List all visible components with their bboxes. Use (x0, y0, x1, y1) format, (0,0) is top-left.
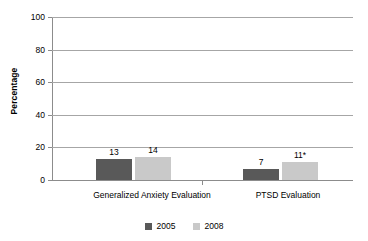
y-tick-mark-80 (48, 50, 52, 51)
gridline-40 (52, 115, 353, 116)
y-tick-mark-0 (48, 180, 52, 181)
plot-area: 100 80 60 40 20 0 13 (52, 17, 353, 180)
bar-2005-generalized-anxiety[interactable]: 13 (96, 159, 132, 180)
gridline-80 (52, 50, 353, 51)
legend-label-2008: 2008 (205, 221, 224, 231)
gridline-60 (52, 82, 353, 83)
legend-item-2005[interactable]: 2005 (145, 221, 176, 231)
y-tick-label-80: 80 (36, 45, 45, 55)
y-tick-label-0: 0 (40, 175, 45, 185)
legend-swatch-icon (193, 223, 200, 230)
bar-2005-ptsd[interactable]: 7 (243, 169, 279, 180)
legend-swatch-icon (145, 223, 152, 230)
category-label-ptsd: PTSD Evaluation (208, 190, 368, 200)
y-tick-mark-100 (48, 17, 52, 18)
y-tick-mark-60 (48, 82, 52, 83)
category-separator-tick (202, 180, 203, 185)
bar-2008-generalized-anxiety[interactable]: 14 (135, 157, 171, 180)
bar-2008-ptsd[interactable]: 11* (282, 162, 318, 180)
y-tick-label-100: 100 (31, 12, 45, 22)
y-tick-label-20: 20 (36, 142, 45, 152)
bar-chart: Percentage 100 80 60 40 20 (0, 0, 368, 241)
gridline-20 (52, 147, 353, 148)
legend: 2005 2008 (0, 221, 368, 231)
legend-label-2005: 2005 (157, 221, 176, 231)
bar-value-label: 7 (259, 157, 264, 167)
y-axis-title: Percentage (9, 51, 19, 131)
legend-item-2008[interactable]: 2008 (193, 221, 224, 231)
y-axis-line (52, 17, 53, 180)
y-tick-mark-40 (48, 115, 52, 116)
bar-value-label: 11* (294, 150, 306, 160)
y-tick-label-40: 40 (36, 110, 45, 120)
y-tick-label-60: 60 (36, 77, 45, 87)
bar-value-label: 14 (148, 145, 157, 155)
gridline-100 (52, 17, 353, 18)
y-tick-mark-20 (48, 147, 52, 148)
bar-value-label: 13 (109, 147, 118, 157)
